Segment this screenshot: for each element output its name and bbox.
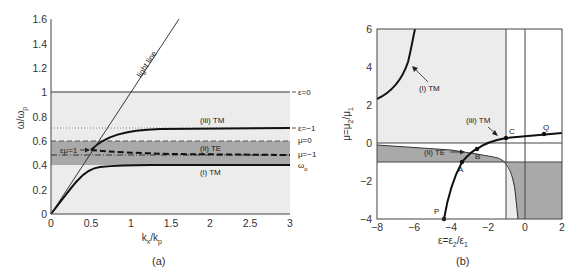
x-axis-label-b: ε=ε2/ε1 (438, 235, 468, 248)
iii-tm-label-b: (iii) TM (466, 116, 491, 125)
xtick: 0.5 (84, 217, 99, 229)
xtick: 1.5 (164, 217, 179, 229)
label-b: B (475, 152, 480, 161)
point-a (460, 160, 464, 164)
eps-mu-label: εμ=1 (60, 146, 78, 155)
xtick: −4 (445, 221, 457, 233)
ytick: 0.6 (32, 135, 47, 147)
i-tm-label-b: (i) TM (419, 84, 440, 93)
y-tick-labels-b: −4 −2 0 2 4 6 (360, 23, 372, 225)
mu0-label: μ=0 (298, 136, 312, 145)
ii-te-label-b: (ii) TE (424, 148, 445, 157)
right-side-labels: ε=0 ε=−1 μ=0 μ=−1 ωo (292, 88, 317, 172)
point-q (542, 132, 546, 136)
label-c: C (509, 127, 515, 136)
ytick: 0 (41, 208, 47, 220)
figure: 0 0.2 0.4 0.6 0.8 1 1.2 1.4 1.6 0 0.5 1 … (0, 0, 582, 279)
label-p: P (434, 207, 439, 216)
xtick: −2 (482, 221, 494, 233)
x-tick-labels: 0 0.5 1 1.5 2 2.5 3 (48, 217, 293, 229)
light-line-label: light line (135, 49, 159, 79)
panel-a: 0 0.2 0.4 0.6 0.8 1 1.2 1.4 1.6 0 0.5 1 … (15, 13, 317, 267)
mum1-label: μ=−1 (298, 150, 317, 159)
xtick: 2 (559, 221, 565, 233)
xtick: 0 (522, 221, 528, 233)
xtick: −8 (371, 221, 383, 233)
caption-a: (a) (152, 255, 165, 267)
xtick: 1 (128, 217, 134, 229)
dark-shaded-band (51, 141, 290, 165)
caption-b: (b) (456, 255, 469, 267)
label-q: Q (543, 123, 549, 132)
xtick: 2.5 (243, 217, 258, 229)
xtick: 2 (207, 217, 213, 229)
ytick: −2 (360, 175, 372, 187)
ytick: 2 (366, 99, 372, 111)
label-a: A (458, 165, 464, 174)
ytick: 1.2 (32, 62, 47, 74)
light-region-upper (377, 29, 506, 143)
ytick: 0.2 (32, 184, 47, 196)
ytick: 1.6 (32, 13, 47, 25)
eps0-label: ε=0 (298, 88, 311, 97)
ytick: 0.4 (32, 159, 47, 171)
point-b (475, 147, 479, 151)
ytick: 4 (366, 61, 372, 73)
x-axis-label: kx/kp (142, 232, 162, 246)
point-c (504, 136, 508, 140)
xtick: 0 (48, 217, 54, 229)
ii-te-label: (ii) TE (200, 144, 221, 153)
ytick: 6 (366, 23, 372, 35)
panel-b: P A B C Q (i) TM (iii) TM (ii) TE −4 −2 … (341, 23, 565, 267)
ytick: 1 (41, 86, 47, 98)
xtick: 3 (287, 217, 293, 229)
omega0-label: ωo (298, 161, 308, 172)
epsm1-label: ε=−1 (298, 124, 316, 133)
y-axis-label: ω/ωp (15, 107, 29, 129)
y-axis-label-b: μ=μ2/μ1 (341, 107, 354, 141)
ytick: 0.8 (32, 111, 47, 123)
i-tm-label: (i) TM (200, 168, 221, 177)
y-tick-labels: 0 0.2 0.4 0.6 0.8 1 1.2 1.4 1.6 (32, 13, 47, 220)
ytick: 0 (366, 137, 372, 149)
xtick: −6 (408, 221, 420, 233)
ytick: 1.4 (32, 38, 47, 50)
iii-tm-label: (iii) TM (200, 116, 225, 125)
x-tick-labels-b: −8 −6 −4 −2 0 2 (371, 221, 565, 233)
